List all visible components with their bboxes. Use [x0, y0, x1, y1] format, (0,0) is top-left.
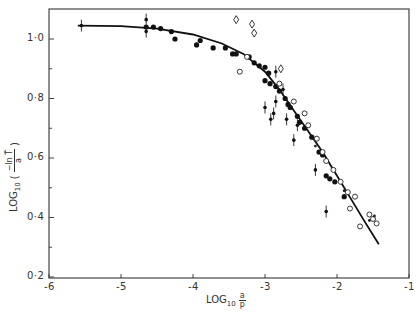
y-tick-label: 1·0 — [27, 32, 44, 43]
data-point-filled-circle — [151, 25, 156, 30]
data-point-errorbar — [144, 30, 148, 34]
data-point-open-circle — [345, 190, 350, 195]
data-point-open-circle — [374, 221, 379, 226]
data-point-filled-circle — [257, 63, 262, 68]
data-point-open-circle — [338, 179, 343, 184]
data-point-errorbar — [272, 112, 276, 116]
data-point-open-diamond — [250, 20, 255, 28]
y-axis-label-paren-open: ( — [9, 175, 20, 179]
data-point-filled-circle — [295, 114, 300, 119]
y-tick-label: 0·8 — [27, 92, 44, 103]
data-point-filled-circle — [211, 45, 216, 50]
data-point-errorbar — [80, 24, 84, 28]
plot-frame — [49, 9, 409, 278]
x-tick-label: -4 — [188, 281, 199, 292]
data-point-open-circle — [324, 158, 329, 163]
data-point-filled-circle — [262, 65, 267, 70]
data-point-filled-circle — [252, 60, 257, 65]
data-point-filled-circle — [262, 78, 267, 83]
data-point-open-diamond — [278, 65, 283, 73]
data-point-filled-circle — [194, 42, 199, 47]
y-tick-label: 0·4 — [27, 211, 44, 222]
data-point-open-diamond — [234, 16, 239, 24]
data-point-errorbar — [263, 106, 267, 110]
data-point-open-circle — [302, 111, 307, 116]
y-tick-label: 0·2 — [27, 270, 44, 281]
data-point-small-dot — [373, 215, 376, 218]
data-point-errorbar — [274, 100, 278, 104]
data-point-filled-circle — [277, 88, 282, 93]
data-point-filled-circle — [172, 36, 177, 41]
data-point-open-circle — [245, 54, 250, 59]
data-point-errorbar — [296, 123, 300, 127]
data-point-small-dot — [368, 219, 371, 222]
x-tick-label: -5 — [116, 281, 127, 292]
scatter-plot — [0, 0, 418, 317]
data-point-open-circle — [331, 167, 336, 172]
x-tick-label: -6 — [44, 281, 55, 292]
data-point-filled-circle — [234, 51, 239, 56]
data-point-open-diamond — [252, 29, 257, 37]
data-point-open-circle — [320, 150, 325, 155]
data-point-errorbar — [144, 18, 148, 22]
data-point-small-dot — [343, 189, 346, 192]
y-axis-label-fraction: −ln T̄ a — [6, 149, 23, 172]
data-point-open-circle — [367, 212, 372, 217]
data-point-open-circle — [277, 81, 282, 86]
data-point-open-circle — [358, 224, 363, 229]
data-point-filled-circle — [332, 179, 337, 184]
data-point-filled-circle — [198, 38, 203, 43]
x-axis-label-log: LOG10 — [206, 294, 236, 308]
data-point-errorbar — [314, 168, 318, 172]
data-point-open-circle — [306, 123, 311, 128]
data-point-filled-circle — [169, 29, 174, 34]
data-point-filled-circle — [327, 176, 332, 181]
y-axis-label-paren-close: ) — [9, 142, 20, 146]
data-point-errorbar — [324, 210, 328, 214]
x-tick-label: -3 — [260, 281, 271, 292]
data-point-open-circle — [314, 136, 319, 141]
y-tick-label: 0·6 — [27, 151, 44, 162]
fitted-curve — [78, 26, 379, 245]
data-point-errorbar — [285, 118, 289, 122]
y-axis-label-log: LOG10 — [8, 182, 22, 212]
data-point-filled-circle — [158, 26, 163, 31]
data-point-open-circle — [237, 69, 242, 74]
data-point-errorbar — [292, 138, 296, 142]
x-tick-label: -2 — [332, 281, 343, 292]
data-point-filled-circle — [309, 135, 314, 140]
data-point-filled-circle — [283, 96, 288, 101]
data-point-filled-circle — [342, 194, 347, 199]
data-point-errorbar — [269, 118, 273, 122]
x-axis-label-fraction: a p — [239, 292, 246, 309]
data-point-filled-circle — [267, 81, 272, 86]
data-point-errorbar — [281, 88, 285, 92]
data-point-small-dot — [314, 145, 317, 148]
data-point-filled-circle — [223, 45, 228, 50]
x-axis-label: LOG10 a p — [206, 292, 246, 309]
data-point-open-circle — [353, 194, 358, 199]
data-point-open-circle — [347, 206, 352, 211]
data-point-filled-circle — [288, 105, 293, 110]
data-point-errorbar — [274, 70, 278, 74]
data-point-open-circle — [291, 99, 296, 104]
data-point-filled-circle — [266, 71, 271, 76]
x-tick-label: -1 — [404, 281, 415, 292]
y-axis-label: LOG10 ( −ln T̄ a ) — [6, 142, 23, 212]
